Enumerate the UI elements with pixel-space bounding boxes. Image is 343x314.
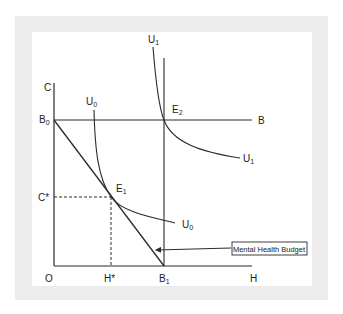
indifference-curve-u0	[94, 110, 175, 223]
economics-diagram: Mental Health Budget C H O B0 B B1 C* H*…	[0, 0, 343, 314]
b-label: B	[258, 115, 265, 126]
c-star-label: C*	[38, 192, 49, 203]
u1-top-label: U1	[148, 34, 159, 46]
origin-label: O	[45, 273, 53, 284]
indifference-curve-u1	[153, 47, 240, 158]
b0-label: B0	[39, 114, 50, 126]
u0-right-label: U0	[182, 219, 193, 231]
callout-arrow	[156, 248, 231, 250]
e1-label: E1	[116, 183, 127, 195]
e2-label: E2	[172, 104, 183, 116]
callout-label: Mental Health Budget	[233, 245, 306, 254]
u0-top-label: U0	[86, 96, 97, 108]
u1-right-label: U1	[243, 153, 254, 165]
b1-label: B1	[159, 273, 170, 285]
h-star-label: H*	[104, 273, 115, 284]
y-axis-label: C	[44, 82, 51, 93]
x-axis-label: H	[250, 273, 257, 284]
